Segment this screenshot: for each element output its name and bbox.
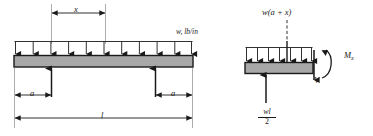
distributed-load-label: w, lb/in <box>176 28 198 36</box>
l-span-label: l <box>101 111 103 120</box>
fbd-distributed-load-arrows <box>247 48 312 61</box>
shear-force-label: V <box>314 76 319 85</box>
reaction-force-fraction: wl 2 <box>258 108 276 127</box>
internal-moment-arrow <box>322 50 331 78</box>
left-beam-diagram <box>14 4 193 128</box>
beam-loading-figure: x w, lb/in a a l w(a + x) Mx V wl 2 <box>0 0 373 136</box>
a-right-label: a <box>171 89 175 98</box>
distributed-load-arrows <box>16 42 192 54</box>
beam-member-left <box>14 56 193 68</box>
internal-moment-label: Mx <box>344 51 354 61</box>
figure-vector-canvas <box>0 0 373 136</box>
x-dimension-label: x <box>74 5 78 14</box>
x-dimension-group <box>52 4 106 44</box>
span-extension-lines <box>15 68 193 128</box>
right-free-body-diagram <box>245 20 331 103</box>
moment-subscript: x <box>351 55 354 61</box>
reaction-denominator: 2 <box>258 118 276 126</box>
resultant-load-label: w(a + x) <box>262 8 291 17</box>
reaction-numerator: wl <box>258 108 276 116</box>
beam-member-right <box>245 63 313 74</box>
support-reaction-arrows <box>52 69 156 98</box>
a-left-label: a <box>30 89 34 98</box>
